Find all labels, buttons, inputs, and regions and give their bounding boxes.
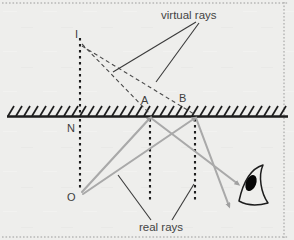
point-label-O: O bbox=[67, 192, 76, 203]
point-label-A: A bbox=[141, 95, 148, 106]
virtual-rays-label: virtual rays bbox=[161, 10, 217, 22]
point-label-N: N bbox=[67, 123, 75, 134]
point-label-B: B bbox=[179, 93, 186, 104]
diagram-canvas bbox=[0, 0, 294, 240]
ray-diagram-figure: virtual rays real rays I A B N O bbox=[0, 0, 294, 240]
point-label-I: I bbox=[75, 29, 78, 40]
real-rays-label: real rays bbox=[139, 222, 183, 234]
